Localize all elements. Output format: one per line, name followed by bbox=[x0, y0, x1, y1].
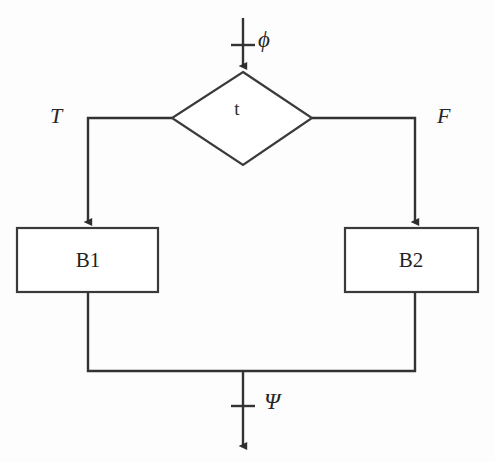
exit-label-psi: Ψ bbox=[264, 390, 280, 413]
true-branch-connector bbox=[88, 118, 172, 222]
b2-merge-connector bbox=[243, 292, 415, 371]
decision-diamond-shape bbox=[172, 72, 312, 165]
true-branch-label: T bbox=[50, 105, 62, 127]
false-branch-connector bbox=[312, 118, 415, 222]
flowchart-canvas: ϕ t T F B1 B2 Ψ bbox=[0, 0, 495, 462]
decision-label: t bbox=[234, 99, 239, 118]
entry-label-phi: ϕ bbox=[258, 28, 270, 51]
b1-merge-connector bbox=[88, 292, 243, 371]
exit-arrow-graphic bbox=[231, 371, 255, 446]
block-b1-label: B1 bbox=[76, 250, 101, 271]
block-b2-label: B2 bbox=[399, 250, 424, 271]
flowchart-graphics bbox=[0, 0, 495, 462]
entry-arrow-graphic bbox=[231, 18, 255, 66]
false-branch-label: F bbox=[437, 105, 450, 127]
